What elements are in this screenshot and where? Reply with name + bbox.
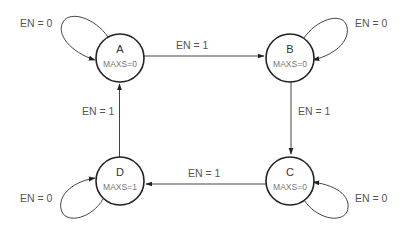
self-loop-a: EN = 0 bbox=[20, 16, 108, 60]
state-c-name: C bbox=[286, 166, 294, 178]
state-c: C MAXS=0 bbox=[266, 157, 314, 205]
transition-d-to-a-label: EN = 1 bbox=[82, 105, 115, 117]
transition-d-to-a: EN = 1 bbox=[82, 84, 120, 160]
transition-a-to-b: EN = 1 bbox=[144, 39, 264, 56]
self-loop-c-label: EN = 0 bbox=[355, 192, 388, 204]
self-loop-d: EN = 0 bbox=[20, 178, 103, 218]
state-a: A MAXS=0 bbox=[96, 34, 144, 82]
state-b-output: MAXS=0 bbox=[273, 59, 307, 69]
self-loop-d-label: EN = 0 bbox=[20, 192, 53, 204]
state-d: D MAXS=1 bbox=[96, 157, 144, 205]
state-a-output: MAXS=0 bbox=[103, 59, 137, 69]
state-c-output: MAXS=0 bbox=[273, 182, 307, 192]
state-a-name: A bbox=[116, 43, 124, 55]
self-loop-b: EN = 0 bbox=[304, 17, 388, 60]
state-b-name: B bbox=[286, 43, 293, 55]
transition-b-to-c-label: EN = 1 bbox=[298, 105, 331, 117]
state-d-name: D bbox=[116, 166, 124, 178]
state-b: B MAXS=0 bbox=[266, 34, 314, 82]
self-loop-b-label: EN = 0 bbox=[355, 17, 388, 29]
transition-b-to-c: EN = 1 bbox=[291, 82, 331, 154]
state-d-output: MAXS=1 bbox=[103, 182, 137, 192]
self-loop-a-label: EN = 0 bbox=[20, 17, 53, 29]
transition-c-to-d: EN = 1 bbox=[146, 167, 267, 184]
state-diagram: EN = 1 EN = 1 EN = 1 EN = 1 EN = 0 EN = … bbox=[0, 0, 410, 235]
self-loop-c: EN = 0 bbox=[304, 182, 388, 218]
transition-c-to-d-label: EN = 1 bbox=[188, 167, 221, 179]
transition-a-to-b-label: EN = 1 bbox=[176, 39, 209, 51]
